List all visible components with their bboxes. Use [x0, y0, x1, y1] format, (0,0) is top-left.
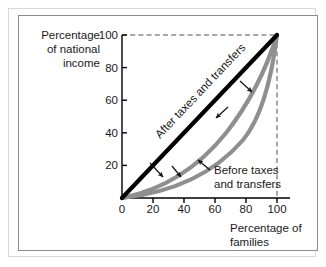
y-tick-label-40: 40: [105, 127, 118, 139]
x-axis-label-line-1: Percentage of: [230, 222, 302, 234]
y-tick-label-20: 20: [105, 159, 118, 171]
before-taxes-label-line-1: Before taxes: [214, 164, 279, 176]
x-tick-label-60: 60: [209, 203, 222, 215]
before-taxes-label-line-2: and transfers: [214, 178, 281, 190]
y-tick-label-80: 80: [105, 62, 118, 74]
x-tick-label-20: 20: [147, 203, 160, 215]
lorenz-chart: 100 80 60 40 20 Percentage of national i…: [0, 0, 326, 267]
x-tick-label-80: 80: [240, 203, 253, 215]
x-axis-label-line-2: families: [230, 236, 269, 248]
y-axis-label-line-3: income: [63, 57, 100, 69]
x-tick-label-100: 100: [267, 203, 286, 215]
y-axis-label-line-2: of national: [47, 43, 100, 55]
leader-arrow-after-mid: [216, 107, 228, 118]
leader-arrow-before-upper: [240, 81, 252, 92]
y-tick-label-60: 60: [105, 94, 118, 106]
y-tick-label-100: 100: [99, 29, 118, 41]
leader-arrow-before-lower: [198, 160, 210, 170]
y-axis-label-line-1: Percentage: [41, 29, 100, 41]
x-tick-label-0: 0: [119, 203, 125, 215]
x-tick-label-40: 40: [178, 203, 191, 215]
figure-root: 100 80 60 40 20 Percentage of national i…: [0, 0, 326, 267]
leader-arrow-equality: [150, 163, 163, 177]
